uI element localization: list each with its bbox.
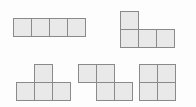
shape-cell: [31, 18, 50, 37]
shape-cell: [157, 82, 176, 101]
shape-cell: [139, 64, 158, 83]
shape-cell: [52, 82, 71, 101]
shape-cell: [120, 29, 139, 48]
shape-cell: [13, 18, 32, 37]
shape-cell: [78, 64, 97, 83]
shape-cell: [96, 64, 115, 83]
shape-cell: [157, 64, 176, 83]
shape-cell: [34, 82, 53, 101]
shape-cell: [156, 29, 175, 48]
shape-cell: [138, 29, 157, 48]
shape-cell: [96, 82, 115, 101]
shape-cell: [16, 82, 35, 101]
shape-cell: [114, 82, 133, 101]
shape-cell: [49, 18, 68, 37]
shape-cell: [139, 82, 158, 101]
polyomino-figure: [0, 0, 196, 107]
shape-cell: [67, 18, 86, 37]
shape-cell: [120, 11, 139, 30]
shape-cell: [34, 64, 53, 83]
